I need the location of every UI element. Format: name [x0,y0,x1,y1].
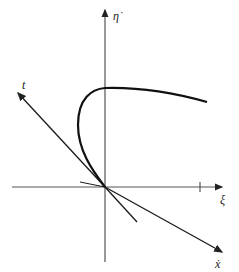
trajectory-curve [78,88,207,187]
t-line-label: t [22,78,26,92]
t-line [18,93,105,187]
x-dot-line [105,187,222,252]
phase-diagram: η̇ ξ t ẋ [0,0,239,272]
t-line-extension [105,187,137,222]
horizontal-axis-label: ξ [220,193,226,207]
x-dot-line-label: ẋ [214,257,221,271]
vertical-axis-label: η̇ [113,9,123,23]
